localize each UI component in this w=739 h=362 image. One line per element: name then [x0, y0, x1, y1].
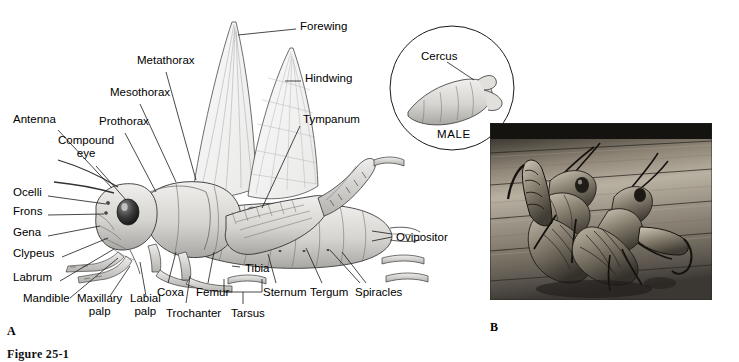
label-antenna: Antenna: [13, 113, 56, 126]
head-shape: [54, 160, 157, 283]
label-compound-eye: Compound eye: [58, 134, 114, 159]
label-spiracles: Spiracles: [355, 286, 402, 299]
panel-b-letter: B: [490, 320, 498, 335]
label-hindwing: Hindwing: [305, 72, 352, 85]
photo-content: [490, 123, 712, 300]
label-tympanum: Tympanum: [303, 113, 360, 126]
label-tergum: Tergum: [310, 286, 348, 299]
label-gena: Gena: [13, 226, 41, 239]
label-sternum: Sternum: [263, 286, 306, 299]
tarsus-shape: [228, 275, 266, 284]
label-cercus: Cercus: [421, 50, 457, 63]
label-maxillary-palp: Maxillary palp: [77, 292, 122, 317]
label-tibia: Tibia: [245, 262, 270, 275]
label-labrum: Labrum: [13, 271, 52, 284]
label-mesothorax: Mesothorax: [110, 86, 170, 99]
label-tarsus: Tarsus: [231, 307, 265, 320]
figure-caption: Figure 25-1: [7, 347, 69, 362]
panel-b-photo: [490, 123, 712, 300]
label-metathorax: Metathorax: [137, 54, 195, 67]
label-male: MALE: [437, 128, 471, 141]
label-forewing: Forewing: [300, 20, 347, 33]
forewing-shape: [192, 22, 256, 199]
hind-tarsus-right: [382, 255, 428, 282]
label-ocelli: Ocelli: [13, 186, 42, 199]
panel-a-letter: A: [7, 324, 16, 339]
label-clypeus: Clypeus: [13, 247, 55, 260]
label-femur: Femur: [196, 286, 229, 299]
label-ovipositor: Ovipositor: [396, 231, 448, 244]
label-mandible: Mandible: [23, 292, 70, 305]
label-frons: Frons: [13, 205, 42, 218]
label-trochanter: Trochanter: [166, 307, 221, 320]
label-coxa: Coxa: [157, 286, 184, 299]
label-prothorax: Prothorax: [99, 115, 149, 128]
